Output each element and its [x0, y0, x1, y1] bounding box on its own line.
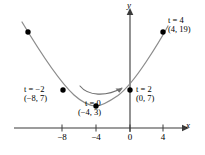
annotation-t-4-coord: (4, 19) [168, 25, 191, 34]
annotation-t-neg2: t = −2 (−8, 7) [24, 85, 47, 103]
data-point-t-neg2 [60, 87, 65, 92]
x-axis [14, 125, 189, 132]
x-tick-label--8: −8 [54, 133, 70, 142]
y-axis-label: y [127, 1, 131, 10]
annotation-t-0: t = 0 (−4, 3) [78, 99, 101, 117]
direction-arrow-icon [80, 86, 123, 94]
data-point-extra [25, 29, 30, 34]
annotation-t-0-coord: (−4, 3) [78, 108, 101, 117]
x-tick-label-0: 0 [124, 133, 136, 142]
y-axis [127, 8, 134, 132]
data-point-t-2 [127, 87, 132, 92]
annotation-t-2: t = 2 (0, 7) [136, 85, 154, 103]
annotation-t-4: t = 4 (4, 19) [168, 16, 191, 34]
x-axis-label: x [186, 121, 190, 130]
annotation-t-2-coord: (0, 7) [136, 94, 154, 103]
annotation-t-neg2-coord: (−8, 7) [24, 94, 47, 103]
parametric-curve-figure: x y −8 −4 0 4 t = −2 (−8, 7) t = 0 (−4, … [0, 0, 205, 155]
x-tick-label-4: 4 [157, 133, 169, 142]
data-point-t-4 [160, 29, 165, 34]
x-tick-label--4: −4 [88, 133, 104, 142]
